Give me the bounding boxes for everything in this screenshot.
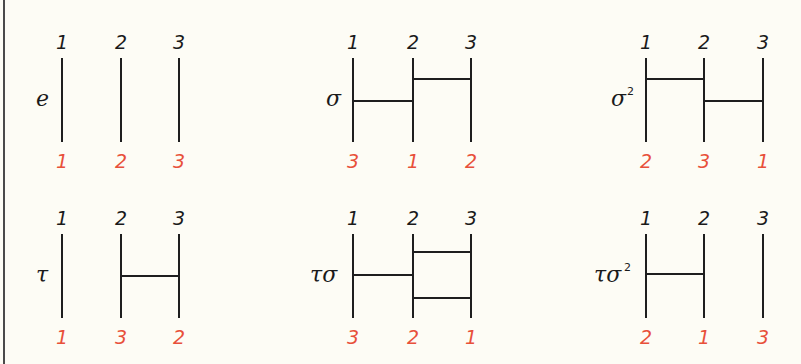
- element-superscript: 2: [627, 85, 634, 98]
- permutation-diagram-grid: e112233σ132132σ2122331τ112332τσ132231τσ2…: [0, 0, 801, 364]
- top-label: 3: [757, 31, 769, 53]
- bottom-label: 3: [173, 150, 185, 172]
- element-superscript: 2: [624, 261, 631, 274]
- top-label: 1: [640, 31, 652, 53]
- top-label: 3: [465, 207, 477, 229]
- bottom-label: 2: [115, 150, 127, 172]
- bottom-label: 1: [757, 150, 769, 172]
- permutation-panel: τσ132231: [310, 207, 477, 348]
- element-label: τσ: [594, 262, 622, 287]
- element-label: τ: [36, 262, 49, 287]
- element-label: e: [36, 86, 49, 111]
- top-label: 2: [407, 207, 419, 229]
- bottom-label: 3: [698, 150, 710, 172]
- top-label: 1: [347, 207, 359, 229]
- bottom-label: 3: [757, 326, 769, 348]
- top-label: 3: [465, 31, 477, 53]
- permutation-panel: σ132132: [326, 31, 477, 172]
- element-label: σ: [326, 86, 342, 111]
- top-label: 2: [698, 207, 710, 229]
- bottom-label: 3: [115, 326, 127, 348]
- permutation-panel: τ112332: [36, 207, 185, 348]
- bottom-label: 2: [640, 326, 652, 348]
- top-label: 2: [407, 31, 419, 53]
- top-label: 3: [173, 31, 185, 53]
- top-label: 1: [56, 207, 68, 229]
- top-label: 3: [757, 207, 769, 229]
- bottom-label: 3: [347, 326, 359, 348]
- bottom-label: 2: [640, 150, 652, 172]
- bottom-label: 1: [56, 150, 68, 172]
- bottom-label: 1: [698, 326, 710, 348]
- top-label: 2: [115, 31, 127, 53]
- top-label: 3: [173, 207, 185, 229]
- top-label: 2: [698, 31, 710, 53]
- top-label: 1: [347, 31, 359, 53]
- bottom-label: 2: [465, 150, 477, 172]
- element-label: τσ: [310, 262, 338, 287]
- top-label: 1: [56, 31, 68, 53]
- top-label: 2: [115, 207, 127, 229]
- bottom-label: 3: [347, 150, 359, 172]
- permutation-panel: σ2122331: [611, 31, 769, 172]
- bottom-label: 1: [407, 150, 419, 172]
- bottom-label: 1: [465, 326, 477, 348]
- bottom-label: 2: [407, 326, 419, 348]
- bottom-label: 1: [56, 326, 68, 348]
- permutation-panel: τσ2122133: [594, 207, 769, 348]
- bottom-label: 2: [173, 326, 185, 348]
- element-label: σ: [611, 86, 627, 111]
- permutation-panel: e112233: [36, 31, 185, 172]
- top-label: 1: [640, 207, 652, 229]
